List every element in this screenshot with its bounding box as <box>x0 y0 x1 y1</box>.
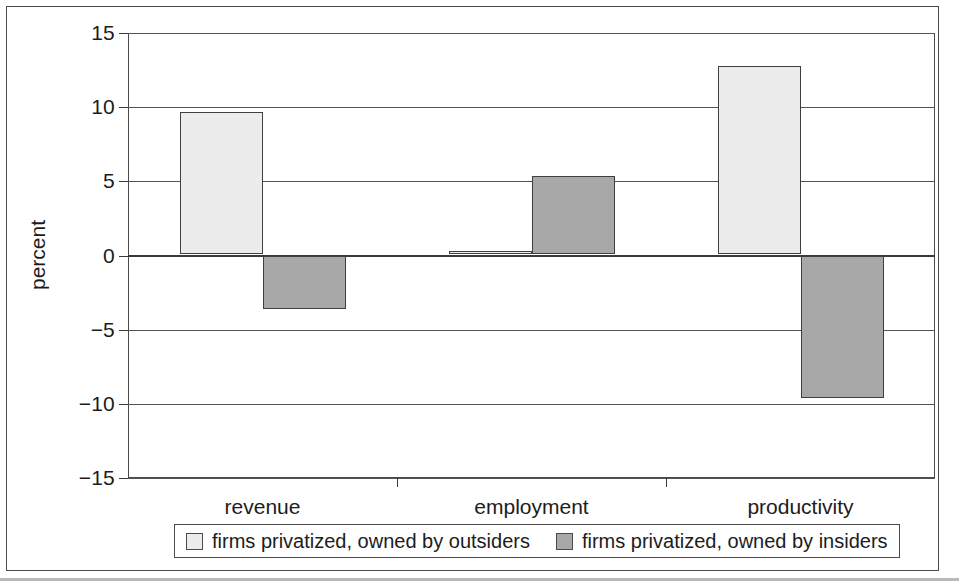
y-tick-mark <box>119 330 128 331</box>
x-category-label-revenue: revenue <box>225 495 301 519</box>
chart-figure: 151050−5−10−15 revenueemploymentproducti… <box>0 0 959 584</box>
x-category-label-productivity: productivity <box>747 495 853 519</box>
x-tick-mark <box>666 478 667 487</box>
gridline <box>128 404 935 405</box>
gridline <box>128 107 935 108</box>
y-tick-label: 15 <box>91 21 115 45</box>
y-tick-label: 10 <box>91 95 115 119</box>
y-tick-mark <box>119 33 128 34</box>
y-tick-mark <box>119 107 128 108</box>
legend-label-insiders: firms privatized, owned by insiders <box>582 530 888 553</box>
bar-employment-outsiders <box>449 251 532 255</box>
y-tick-label: 5 <box>103 169 115 193</box>
y-tick-mark <box>119 256 128 257</box>
legend-swatch-insiders-icon <box>556 533 573 550</box>
y-tick-label: −15 <box>79 466 115 490</box>
bar-employment-insiders <box>532 176 615 255</box>
chart-legend: firms privatized, owned by outsiders fir… <box>174 524 900 558</box>
plot-area: 151050−5−10−15 revenueemploymentproducti… <box>128 33 935 478</box>
y-tick-label: 0 <box>103 244 115 268</box>
legend-item-outsiders: firms privatized, owned by outsiders <box>186 530 530 553</box>
legend-swatch-outsiders-icon <box>186 533 203 550</box>
y-tick-label: −5 <box>91 318 115 342</box>
gridline <box>128 33 935 34</box>
bar-productivity-insiders <box>801 256 884 398</box>
legend-label-outsiders: firms privatized, owned by outsiders <box>212 530 530 553</box>
y-tick-label: −10 <box>79 392 115 416</box>
x-tick-mark <box>397 478 398 487</box>
legend-item-insiders: firms privatized, owned by insiders <box>556 530 888 553</box>
gridline <box>128 478 935 479</box>
y-tick-mark <box>119 404 128 405</box>
x-category-label-employment: employment <box>474 495 588 519</box>
y-tick-mark <box>119 478 128 479</box>
bar-revenue-insiders <box>263 256 346 309</box>
bar-revenue-outsiders <box>180 112 263 254</box>
y-axis-title: percent <box>26 220 50 290</box>
y-tick-mark <box>119 181 128 182</box>
page-bottom-rule <box>0 578 959 581</box>
bar-productivity-outsiders <box>718 66 801 254</box>
